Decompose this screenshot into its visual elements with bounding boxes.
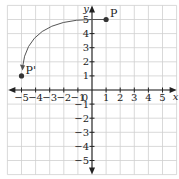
y-tick-label: −2 <box>74 113 89 124</box>
x-tick-label: −4 <box>28 92 43 103</box>
axes <box>8 5 176 174</box>
rotation-arc-path <box>23 20 93 68</box>
y-axis-up-arrow-icon <box>89 5 95 12</box>
x-axis-label: x <box>173 91 179 102</box>
point-p-prime <box>19 73 24 78</box>
coordinate-plane: −5−4−3−2−11234554321−1−2−3−4−50xy PP' <box>0 0 179 179</box>
y-tick-label: 4 <box>83 28 89 39</box>
y-tick-label: 1 <box>83 70 89 81</box>
x-tick-label: −3 <box>42 92 57 103</box>
x-tick-label: 5 <box>159 92 165 103</box>
x-tick-label: −2 <box>56 92 71 103</box>
origin-label: 0 <box>82 92 88 103</box>
x-tick-label: 3 <box>131 92 137 103</box>
point-label: P' <box>26 64 36 77</box>
rotation-arc <box>20 20 106 71</box>
arc-arrowhead-icon <box>20 64 25 70</box>
points: PP' <box>19 7 118 79</box>
y-axis-label: y <box>82 3 89 14</box>
tick-labels: −5−4−3−2−11234554321−1−2−3−4−50xy <box>14 3 179 166</box>
y-tick-label: −5 <box>74 155 89 166</box>
x-tick-label: −5 <box>14 92 29 103</box>
y-tick-label: 3 <box>83 42 89 53</box>
point-label: P <box>110 7 118 20</box>
y-tick-label: −4 <box>74 141 89 152</box>
y-axis-down-arrow-icon <box>89 168 95 175</box>
y-tick-label: −3 <box>74 127 89 138</box>
x-tick-label: 2 <box>117 92 123 103</box>
y-tick-label: 2 <box>83 56 89 67</box>
plane-svg: −5−4−3−2−11234554321−1−2−3−4−50xy PP' <box>0 0 179 179</box>
point-p <box>104 17 109 22</box>
x-tick-label: 1 <box>103 92 109 103</box>
x-tick-label: 4 <box>145 92 151 103</box>
